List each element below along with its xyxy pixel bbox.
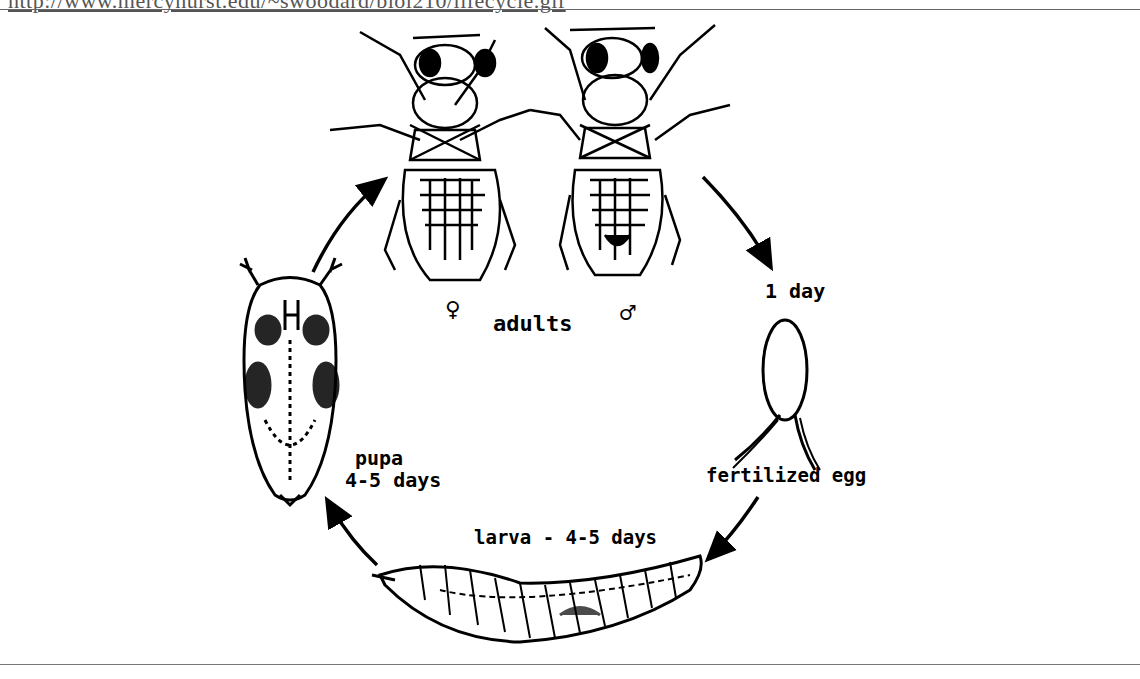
male-symbol: ♂ — [620, 300, 636, 326]
larva-label: larva - 4-5 days — [474, 528, 657, 547]
egg-duration-label: 1 day — [765, 281, 825, 301]
pupa-label: pupa — [355, 448, 403, 468]
adults-label: adults — [493, 313, 572, 335]
pupa-illustration — [240, 258, 342, 505]
arrow-adults-to-egg — [703, 177, 768, 262]
arrow-egg-to-larva — [712, 497, 758, 555]
larva-illustration — [372, 556, 701, 642]
female-fly-illustration — [330, 32, 530, 280]
female-symbol: ♀ — [445, 296, 461, 322]
male-fly-illustration — [530, 25, 730, 275]
egg-illustration — [733, 320, 820, 470]
life-cycle-diagram — [0, 0, 1140, 679]
egg-label: fertilized egg — [706, 466, 866, 485]
pupa-duration-label: 4-5 days — [345, 470, 441, 490]
arrow-pupa-to-adults — [313, 183, 380, 272]
arrow-larva-to-pupa — [330, 505, 377, 565]
